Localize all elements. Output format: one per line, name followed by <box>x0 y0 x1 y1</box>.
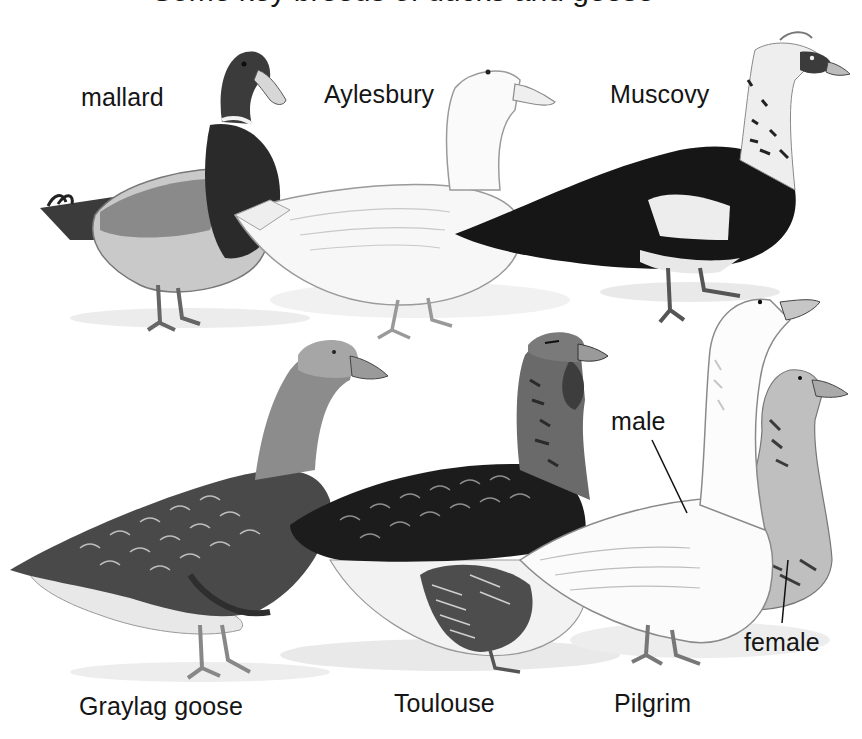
breeds-illustration: Some key breeds of ducks and geese <box>0 0 862 739</box>
label-male: male <box>611 409 666 434</box>
label-toulouse: Toulouse <box>394 691 495 716</box>
male-leader-line <box>652 440 687 513</box>
label-graylag-goose: Graylag goose <box>79 694 243 719</box>
label-muscovy: Muscovy <box>610 82 709 107</box>
label-aylesbury: Aylesbury <box>324 82 434 107</box>
label-pilgrim: Pilgrim <box>614 691 691 716</box>
label-mallard: mallard <box>81 85 164 110</box>
label-female: female <box>744 630 820 655</box>
